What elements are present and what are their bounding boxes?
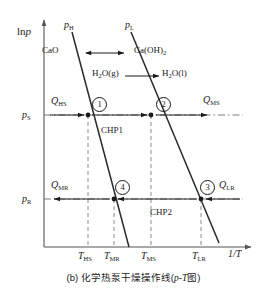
state-point-1-dot (86, 113, 91, 118)
chp1-label: CHP1 (101, 126, 123, 135)
y-axis-label: lnp (17, 26, 31, 37)
x-tick-ths: THS (78, 251, 92, 261)
state-point-2-dot (149, 113, 154, 118)
ca-oh-2-label: Ca(OH)2 (134, 46, 166, 55)
state-marker-1: 1 (92, 97, 107, 112)
qlr-label: QLR (219, 180, 235, 190)
y-tick-ps: pS (22, 110, 31, 120)
figure-container: lnp 1/T pH pL CaO Ca(OH)2 H2O(g) H2O(l) … (0, 0, 267, 297)
state-marker-2: 2 (156, 97, 171, 112)
h2o-gas-label: H2O(g) (92, 69, 119, 78)
state-point-3-dot (199, 197, 204, 202)
caption-text: 化学热泵干燥操作线( (81, 272, 174, 283)
caption-italic: p-T (174, 273, 187, 283)
qhs-label: QHS (51, 96, 67, 106)
x-tick-tlr: TLR (192, 251, 206, 261)
pl-equilibrium-line (131, 32, 219, 243)
caption-suffix: 图) (187, 272, 200, 283)
cao-label: CaO (42, 46, 59, 55)
pl-line-label: pL (125, 20, 134, 30)
ph-equilibrium-line (72, 32, 129, 247)
qms-label: QMS (203, 95, 220, 105)
state-point-4-dot (112, 197, 117, 202)
x-tick-tmr: TMR (104, 251, 120, 261)
figure-caption: (b) 化学热泵干燥操作线(p-T图) (0, 270, 267, 284)
chp2-label: CHP2 (150, 208, 172, 217)
x-axis-label: 1/T (228, 249, 241, 259)
chemical-heat-pump-pT-diagram (0, 0, 267, 262)
state-marker-3: 3 (200, 180, 215, 195)
state-marker-4: 4 (115, 180, 130, 195)
ph-line-label: pH (64, 20, 74, 30)
qmr-label: QMR (51, 180, 68, 190)
y-tick-pr: pR (22, 194, 31, 204)
caption-prefix: (b) (67, 272, 79, 283)
x-tick-tms: TMS (141, 251, 156, 261)
h2o-liquid-label: H2O(l) (162, 69, 187, 78)
